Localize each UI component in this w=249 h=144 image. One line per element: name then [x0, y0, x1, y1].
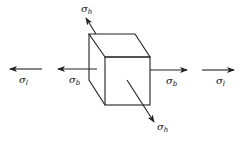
label-sigma-h-top: σh: [81, 3, 92, 16]
label-sigma-b-left: σb: [69, 74, 81, 87]
label-sigma-l-right: σl: [216, 75, 225, 88]
label-sigma-b-right: σb: [166, 75, 178, 88]
stress-element-diagram: σh σl σb σb σl σh: [0, 0, 249, 144]
cube: [89, 34, 150, 105]
sigma-h-top-arrow: [86, 18, 96, 34]
label-sigma-h-bottom: σh: [157, 121, 168, 134]
cube-top-face: [89, 34, 150, 57]
label-sigma-l-left: σl: [19, 74, 28, 87]
